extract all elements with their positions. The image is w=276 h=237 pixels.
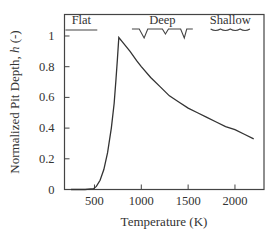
- region-label-shallow: Shallow: [210, 13, 251, 27]
- x-tick-label: 2000: [222, 194, 247, 208]
- y-tick-label: 0.4: [39, 121, 55, 135]
- y-tick-label: 0.6: [39, 90, 55, 104]
- y-tick-label: 0: [48, 183, 54, 197]
- x-tick-label: 500: [85, 194, 104, 208]
- region-annotations: FlatDeepShallow: [65, 13, 250, 38]
- x-axis-ticks: 500100015002000: [85, 185, 247, 208]
- y-axis-title-main: Normalized Pit Depth,: [7, 53, 22, 174]
- y-axis-title: Normalized Pit Depth, h (-): [7, 30, 22, 173]
- region-label-deep: Deep: [149, 13, 175, 27]
- region-glyph-deep: [132, 29, 193, 38]
- pit-depth-chart: 500100015002000 00.20.40.60.81 FlatDeepS…: [0, 0, 276, 237]
- series-layer: [71, 38, 254, 190]
- plot-frame: [65, 15, 265, 190]
- region-glyph-shallow: [211, 29, 250, 31]
- y-tick-label: 0.8: [39, 60, 55, 74]
- y-tick-label: 0.2: [39, 152, 55, 166]
- x-tick-label: 1500: [176, 194, 201, 208]
- y-tick-label: 1: [48, 29, 54, 43]
- x-tick-label: 1000: [129, 194, 154, 208]
- x-axis-title: Temperature (K): [121, 214, 208, 229]
- series-line-h-t-: [71, 38, 254, 190]
- region-label-flat: Flat: [72, 13, 92, 27]
- y-axis-title-unit: (-): [7, 30, 22, 46]
